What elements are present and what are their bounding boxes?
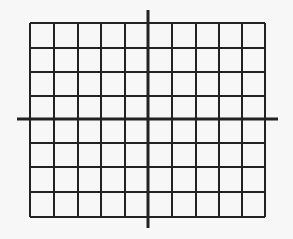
coordinate-grid <box>0 0 293 239</box>
coordinate-grid-diagram <box>0 0 293 239</box>
